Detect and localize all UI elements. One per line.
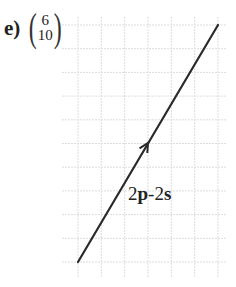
grid — [62, 17, 226, 278]
coefficient-1: 2 — [128, 183, 138, 204]
vector-s: s — [164, 183, 171, 204]
vector-p: p — [138, 183, 149, 204]
grid-diagram — [0, 0, 236, 287]
vector-expression: 2p-2s — [128, 183, 171, 205]
coefficient-2: 2 — [154, 183, 164, 204]
